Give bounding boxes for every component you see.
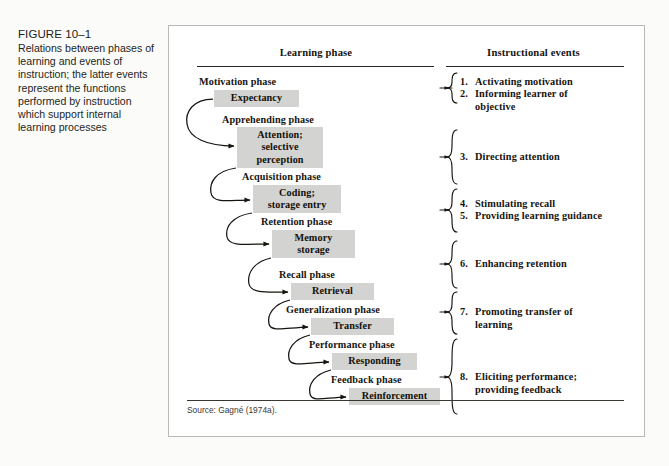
event-item-7[interactable]: 7. Promoting transfer of learning bbox=[460, 306, 573, 331]
phase-box-line: storage entry bbox=[268, 199, 327, 211]
event-item-1[interactable]: 1. Activating motivation bbox=[460, 76, 573, 89]
event-number: 2. bbox=[460, 88, 475, 113]
event-item-4[interactable]: 4. Stimulating recall bbox=[460, 198, 555, 211]
event-text: Informing learner of objective bbox=[475, 88, 568, 113]
phase-box-line: selective bbox=[261, 141, 298, 153]
phase-label-retention: Retention phase bbox=[261, 216, 332, 227]
event-text: Eliciting performance; providing feedbac… bbox=[475, 371, 577, 396]
phase-box-line: Attention; bbox=[257, 129, 303, 141]
event-number: 5. bbox=[460, 210, 475, 223]
phase-label-generalization: Generalization phase bbox=[286, 304, 380, 315]
heading-rule-events bbox=[446, 66, 624, 67]
phase-box-line: Memory bbox=[295, 232, 333, 244]
phase-label-acquisition: Acquisition phase bbox=[242, 171, 321, 182]
phase-box-line: Responding bbox=[348, 355, 401, 367]
phase-box-responding[interactable]: Responding bbox=[332, 353, 417, 370]
event-number: 1. bbox=[460, 76, 475, 89]
phase-box-memory-storage[interactable]: Memory storage bbox=[272, 230, 355, 258]
event-number: 4. bbox=[460, 198, 475, 211]
diagram-canvas: Learning phase Instructional events Moti… bbox=[169, 26, 646, 438]
brace-group-4 bbox=[440, 241, 457, 288]
figure-panel: Learning phase Instructional events Moti… bbox=[168, 25, 645, 437]
phase-box-attention-selective-perception[interactable]: Attention; selective perception bbox=[237, 127, 323, 168]
phase-box-coding-storage-entry[interactable]: Coding; storage entry bbox=[253, 185, 341, 213]
event-text: Directing attention bbox=[475, 151, 560, 164]
event-text: Enhancing retention bbox=[475, 258, 567, 271]
phase-box-expectancy[interactable]: Expectancy bbox=[214, 90, 299, 107]
event-number: 6. bbox=[460, 258, 475, 271]
event-item-5[interactable]: 5. Providing learning guidance bbox=[460, 210, 602, 223]
phase-box-line: Expectancy bbox=[231, 92, 282, 104]
phase-label-apprehending: Apprehending phase bbox=[222, 114, 314, 125]
heading-rule-learning bbox=[197, 66, 434, 67]
event-item-6[interactable]: 6. Enhancing retention bbox=[460, 258, 567, 271]
phase-box-line: storage bbox=[297, 244, 329, 256]
figure-caption: FIGURE 10–1 Relations between phases of … bbox=[18, 27, 158, 134]
phase-label-recall: Recall phase bbox=[279, 269, 335, 280]
figure-description: Relations between phases of learning and… bbox=[18, 42, 158, 134]
event-number: 8. bbox=[460, 371, 475, 396]
figure-number: FIGURE 10–1 bbox=[18, 27, 158, 41]
phase-box-reinforcement[interactable]: Reinforcement bbox=[349, 388, 440, 405]
brace-group-6 bbox=[440, 339, 457, 414]
event-text: Promoting transfer of learning bbox=[475, 306, 573, 331]
event-item-8[interactable]: 8. Eliciting performance; providing feed… bbox=[460, 371, 577, 396]
event-item-2[interactable]: 2. Informing learner of objective bbox=[460, 88, 568, 113]
phase-box-line: Coding; bbox=[279, 187, 315, 199]
phase-box-transfer[interactable]: Transfer bbox=[311, 318, 394, 335]
column-heading-learning-phase: Learning phase bbox=[231, 47, 401, 58]
phase-box-line: Transfer bbox=[333, 320, 372, 332]
phase-label-motivation: Motivation phase bbox=[199, 76, 276, 87]
phase-box-line: perception bbox=[256, 154, 303, 166]
brace-group-3 bbox=[440, 189, 457, 232]
phase-label-performance: Performance phase bbox=[309, 339, 395, 350]
event-text: Activating motivation bbox=[475, 76, 573, 89]
brace-group-2 bbox=[440, 130, 457, 184]
event-item-3[interactable]: 3. Directing attention bbox=[460, 151, 560, 164]
phase-label-feedback: Feedback phase bbox=[331, 374, 402, 385]
phase-box-retrieval[interactable]: Retrieval bbox=[291, 283, 374, 300]
source-rule bbox=[187, 400, 624, 401]
phase-box-line: Retrieval bbox=[312, 285, 353, 297]
event-number: 7. bbox=[460, 306, 475, 331]
brace-group-5 bbox=[440, 292, 457, 334]
column-heading-instructional-events: Instructional events bbox=[446, 47, 621, 58]
brace-group-1 bbox=[440, 73, 457, 103]
event-number: 3. bbox=[460, 151, 475, 164]
event-text: Providing learning guidance bbox=[475, 210, 602, 223]
event-text: Stimulating recall bbox=[475, 198, 555, 211]
source-note: Source: Gagné (1974a). bbox=[187, 405, 277, 415]
